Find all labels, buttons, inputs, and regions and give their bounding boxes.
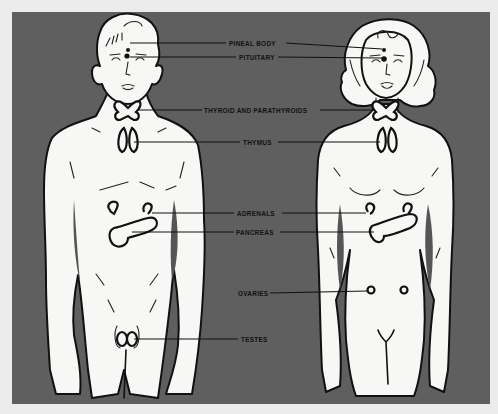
label-pancreas: PANCREAS: [236, 229, 274, 236]
label-pineal-body: PINEAL BODY: [229, 40, 276, 47]
female-pituitary: [381, 56, 387, 62]
label-pituitary: PITUITARY: [239, 54, 275, 61]
label-thymus: THYMUS: [243, 139, 272, 146]
endocrine-diagram: PINEAL BODY PITUITARY THYROID AND PARATH…: [0, 0, 498, 414]
label-testes: TESTES: [241, 336, 268, 343]
male-pineal-body: [126, 48, 130, 52]
label-ovaries: OVARIES: [238, 290, 269, 297]
female-pineal-body: [382, 48, 386, 52]
male-pituitary: [124, 53, 129, 58]
label-adrenals: ADRENALS: [237, 210, 275, 217]
label-thyroid-and-parathyroids: THYROID AND PARATHYROIDS: [204, 107, 308, 114]
